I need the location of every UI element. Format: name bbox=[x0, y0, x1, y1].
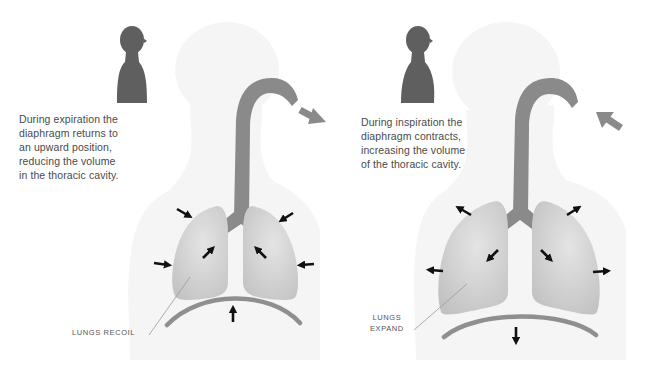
lungs-expand-label: LUNGS EXPAND bbox=[370, 312, 404, 334]
person-silhouette-icon bbox=[117, 26, 147, 103]
label-text: LUNGS bbox=[370, 312, 404, 323]
expiration-panel: During expiration the diaphragm returns … bbox=[0, 0, 326, 386]
label-text: EXPAND bbox=[370, 323, 404, 334]
airflow-out-arrow-icon bbox=[300, 108, 326, 124]
body-outline bbox=[128, 22, 320, 360]
caption-line: of the thoracic cavity. bbox=[361, 157, 465, 171]
caption-line: During expiration the bbox=[19, 112, 119, 126]
caption-line: reducing the volume bbox=[19, 154, 119, 168]
caption-line: increasing the volume bbox=[361, 143, 465, 157]
caption-line: diaphragm contracts, bbox=[361, 129, 465, 143]
inspiration-caption: During inspiration the diaphragm contrac… bbox=[361, 115, 465, 171]
caption-line: in the thoracic cavity. bbox=[19, 168, 119, 182]
caption-line: During inspiration the bbox=[361, 115, 465, 129]
inspiration-panel: During inspiration the diaphragm contrac… bbox=[326, 0, 652, 386]
caption-line: an upward position, bbox=[19, 140, 119, 154]
lungs-recoil-label: LUNGS RECOIL bbox=[72, 327, 135, 338]
label-text: LUNGS RECOIL bbox=[72, 327, 135, 338]
expiration-caption: During expiration the diaphragm returns … bbox=[19, 112, 119, 182]
expiration-illustration bbox=[0, 0, 326, 386]
caption-line: diaphragm returns to bbox=[19, 126, 119, 140]
arrow-outward-icon bbox=[593, 271, 607, 272]
arrow-outward-icon bbox=[430, 270, 443, 271]
airflow-in-arrow-icon bbox=[596, 112, 621, 128]
person-silhouette-icon bbox=[401, 26, 434, 103]
arrow-inward-icon bbox=[301, 264, 314, 265]
